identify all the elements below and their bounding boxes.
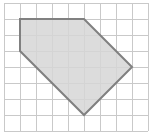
grid-and-shape-canvas <box>0 0 164 135</box>
pentagon-shape <box>20 19 132 115</box>
geometry-figure <box>0 0 164 135</box>
